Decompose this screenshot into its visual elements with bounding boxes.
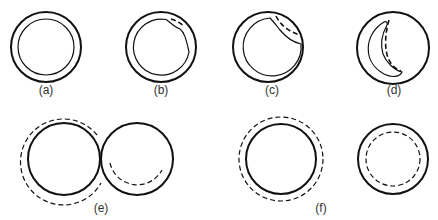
outer-wall-circle [126, 12, 196, 82]
panel-a: (a) [11, 12, 81, 97]
left-circle [246, 124, 316, 194]
label-f: (f) [315, 201, 326, 215]
label-a: (a) [39, 83, 54, 97]
right-dashed-inner-ring [366, 132, 420, 186]
panel-b: (b) [126, 12, 196, 97]
outer-wall-circle [11, 12, 81, 82]
panel-d: (d) [357, 12, 429, 97]
label-b: (b) [154, 83, 169, 97]
inner-lumen-indented [243, 18, 301, 76]
right-circle [101, 123, 173, 195]
panel-c: (c) [233, 12, 303, 97]
diagram-canvas: (a) (b) (c) (d) (e) (f) [0, 0, 438, 220]
inner-lumen-bulged [133, 19, 189, 75]
inner-lumen-circle [18, 19, 74, 75]
label-c: (c) [265, 83, 279, 97]
left-circle [28, 123, 100, 195]
right-circle [358, 124, 428, 194]
panel-e: (e) [21, 119, 173, 215]
label-e: (e) [94, 201, 109, 215]
panel-f: (f) [239, 117, 428, 215]
right-dashed-inner-arc [110, 163, 162, 185]
label-d: (d) [387, 83, 402, 97]
left-dashed-outer-ring [239, 117, 323, 201]
dashed-curve [386, 20, 401, 71]
